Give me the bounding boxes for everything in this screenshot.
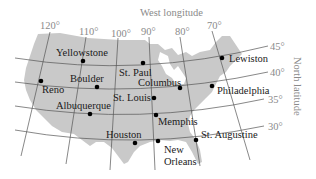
latitude-title: North latitude bbox=[292, 57, 303, 116]
city-label-reno: Reno bbox=[42, 84, 64, 95]
city-label-yellowstone: Yellowstone bbox=[56, 47, 108, 58]
lon-tick-80: 80° bbox=[175, 26, 190, 37]
longitude-title: West longitude bbox=[140, 7, 203, 18]
city-label-new-orleans-line1: New bbox=[164, 144, 184, 155]
lon-tick-90: 90° bbox=[141, 26, 156, 37]
city-label-houston: Houston bbox=[106, 129, 142, 140]
city-label-lewiston: Lewiston bbox=[229, 53, 269, 64]
us-map: West longitude North latitude 120° 110° … bbox=[0, 0, 316, 179]
city-dot-philadelphia[interactable] bbox=[210, 84, 215, 89]
city-dot-boulder[interactable] bbox=[95, 85, 100, 90]
city-dot-houston[interactable] bbox=[133, 141, 138, 146]
latitude-tick-labels: 45° 40° 35° 30° bbox=[268, 41, 285, 132]
city-dot-st-louis[interactable] bbox=[152, 96, 157, 101]
city-label-st-louis: St. Louis bbox=[113, 92, 151, 103]
city-dot-st-paul[interactable] bbox=[141, 61, 146, 66]
lat-tick-40: 40° bbox=[270, 67, 285, 78]
city-dot-reno[interactable] bbox=[39, 79, 44, 84]
city-label-boulder: Boulder bbox=[70, 73, 104, 84]
city-label-albuquerque: Albuquerque bbox=[56, 100, 111, 111]
city-label-columbus: Columbus bbox=[138, 77, 181, 88]
lat-tick-45: 45° bbox=[270, 41, 285, 52]
city-label-st-augustine: St. Augustine bbox=[201, 129, 258, 140]
lat-tick-30: 30° bbox=[268, 121, 283, 132]
lon-tick-110: 110° bbox=[79, 26, 99, 37]
city-dot-yellowstone[interactable] bbox=[81, 59, 86, 64]
city-dot-albuquerque[interactable] bbox=[88, 112, 93, 117]
city-dot-lewiston[interactable] bbox=[220, 56, 225, 61]
city-label-philadelphia: Philadelphia bbox=[217, 85, 270, 96]
lon-tick-120: 120° bbox=[40, 20, 60, 31]
lon-tick-100: 100° bbox=[111, 28, 131, 39]
city-dot-new-orleans[interactable] bbox=[156, 139, 161, 144]
city-dot-st-augustine[interactable] bbox=[194, 138, 199, 143]
city-label-memphis: Memphis bbox=[158, 116, 198, 127]
city-label-new-orleans-line2: Orleans bbox=[164, 156, 197, 167]
lat-tick-35: 35° bbox=[268, 94, 283, 105]
lon-tick-70: 70° bbox=[207, 20, 222, 31]
